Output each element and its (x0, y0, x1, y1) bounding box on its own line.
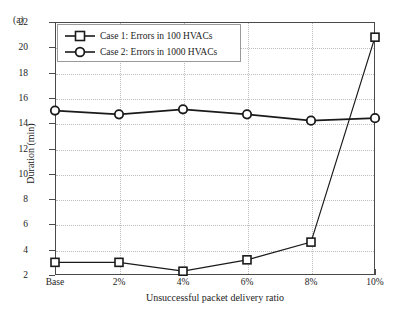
data-point-square-marker (371, 33, 379, 41)
legend-swatch-circle-icon (63, 45, 97, 59)
data-point-square-marker (179, 267, 187, 275)
figure-panel: (a) Duration (min) Unsuccessful packet d… (0, 0, 409, 321)
data-point-square-marker (243, 256, 251, 264)
legend-label-case-2: Case 2: Errors in 1000 HVACs (97, 47, 217, 57)
data-point-circle-marker (243, 110, 251, 118)
data-point-circle-marker (307, 116, 315, 124)
legend-label-case-1: Case 1: Errors in 100 HVACs (97, 31, 213, 41)
legend-entry-case-1: Case 1: Errors in 100 HVACs (63, 28, 235, 44)
series-line (55, 37, 375, 271)
legend-box: Case 1: Errors in 100 HVACs Case 2: Erro… (57, 24, 241, 62)
legend-swatch-square-icon (63, 29, 97, 43)
data-point-circle-marker (51, 106, 59, 114)
series-line (55, 109, 375, 120)
data-point-circle-marker (371, 114, 379, 122)
data-point-square-marker (115, 258, 123, 266)
data-point-circle-marker (115, 110, 123, 118)
legend-entry-case-2: Case 2: Errors in 1000 HVACs (63, 44, 235, 60)
series-1 (51, 33, 379, 275)
data-point-square-marker (51, 258, 59, 266)
data-point-square-marker (307, 238, 315, 246)
series-2 (51, 105, 379, 125)
data-point-circle-marker (179, 105, 187, 113)
